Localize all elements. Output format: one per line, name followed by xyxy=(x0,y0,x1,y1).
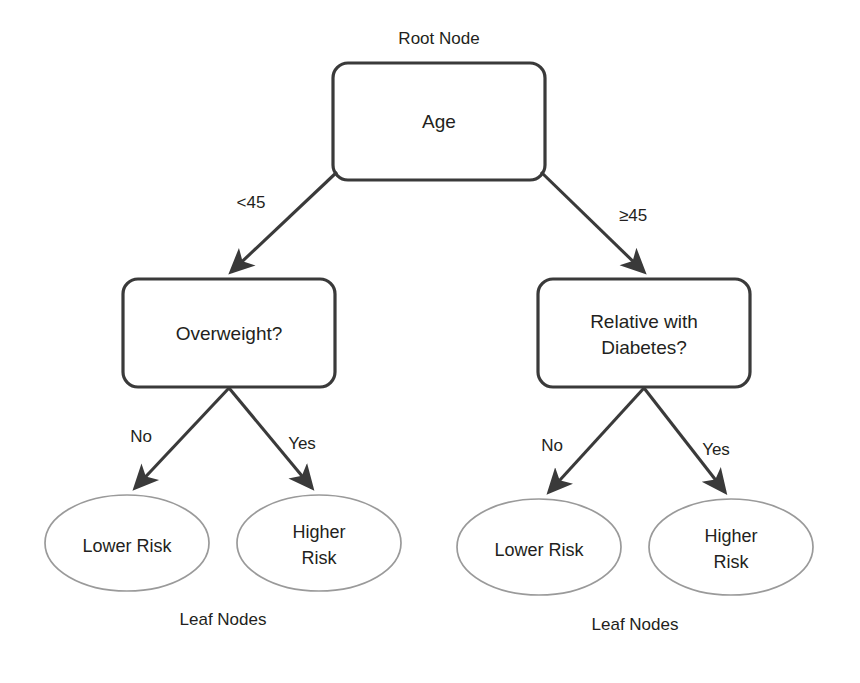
leaf-node-4-label-line1: Higher xyxy=(704,526,757,548)
leaf-node-2-label-line1: Higher xyxy=(292,522,345,544)
decision-node-right-label-line1: Relative with xyxy=(590,310,698,333)
leaf-node-1-label: Lower Risk xyxy=(82,536,171,558)
edge-right-to-leaf3 xyxy=(549,388,644,492)
edge-root-to-left xyxy=(231,172,337,272)
decision-node-right-label-line2: Diabetes? xyxy=(601,336,687,359)
decision-node-left-label: Overweight? xyxy=(176,322,283,345)
leaf-nodes-caption-left: Leaf Nodes xyxy=(180,610,267,631)
edge-label-left-to-leaf1: No xyxy=(130,427,152,448)
leaf-nodes-caption-right: Leaf Nodes xyxy=(592,615,679,636)
root-node-caption: Root Node xyxy=(398,29,479,50)
decision-tree-diagram: Root Node Age Overweight? Relative with … xyxy=(0,0,860,683)
edge-label-right-to-leaf4: Yes xyxy=(702,440,730,461)
edge-label-root-to-right: ≥45 xyxy=(619,206,647,227)
leaf-node-3-label: Lower Risk xyxy=(494,540,583,562)
root-node-label: Age xyxy=(422,110,456,133)
edge-label-left-to-leaf2: Yes xyxy=(288,434,316,455)
edge-label-root-to-left: <45 xyxy=(237,193,266,214)
leaf-node-2-label-line2: Risk xyxy=(302,548,337,570)
diagram-canvas xyxy=(0,0,860,683)
leaf-node-4-label-line2: Risk xyxy=(714,552,749,574)
edge-label-right-to-leaf3: No xyxy=(541,436,563,457)
